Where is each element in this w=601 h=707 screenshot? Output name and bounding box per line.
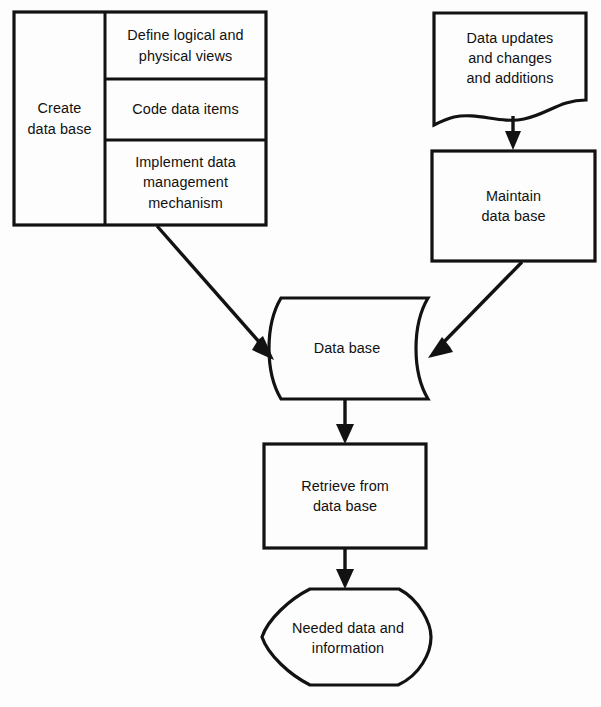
shape-maintain-data-base[interactable] (432, 151, 595, 261)
connector-maintain-to-database-arrowhead (428, 337, 453, 358)
shape-retrieve-from-data-base[interactable] (264, 444, 426, 548)
connector-create-to-database-line (157, 226, 268, 352)
connector-maintain-to-database-line (436, 262, 522, 350)
connector-database-to-retrieve-arrowhead (336, 424, 354, 444)
flowchart-canvas: Create data base Define logical and phys… (0, 0, 601, 707)
flowchart-vector-layer (0, 0, 601, 707)
shape-data-updates-document[interactable] (434, 13, 586, 125)
shape-needed-data-display[interactable] (262, 589, 431, 685)
shape-create-data-base-outer[interactable] (14, 12, 266, 225)
shape-data-base-stored-data[interactable] (269, 298, 428, 399)
connector-retrieve-to-needed-arrowhead (336, 569, 354, 589)
connector-updates-to-maintain-arrowhead (505, 131, 521, 150)
